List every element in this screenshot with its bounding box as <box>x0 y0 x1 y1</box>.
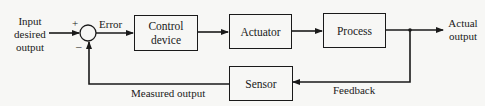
measured-output-label: Measured output <box>131 87 205 100</box>
plus-sign: + <box>72 17 78 29</box>
summing-junction <box>80 25 96 41</box>
control-device-block: Control device <box>134 15 198 51</box>
feedback-label: Feedback <box>333 84 375 97</box>
actuator-block: Actuator <box>229 14 292 49</box>
output-label-line-2: output <box>445 30 481 43</box>
minus-sign: – <box>76 40 82 52</box>
control-device-line-1: Control <box>148 19 183 33</box>
process-block: Process <box>323 13 386 48</box>
output-label: Actual output <box>445 17 481 43</box>
input-label-line-3: output <box>12 41 48 54</box>
control-device-line-2: device <box>148 33 183 47</box>
branch-point <box>408 28 412 32</box>
output-label-line-1: Actual <box>445 17 481 30</box>
sensor-block: Sensor <box>229 66 293 101</box>
input-label: Input desired output <box>12 15 48 54</box>
input-label-line-1: Input <box>12 15 48 28</box>
input-label-line-2: desired <box>12 28 48 41</box>
error-label: Error <box>99 18 122 31</box>
